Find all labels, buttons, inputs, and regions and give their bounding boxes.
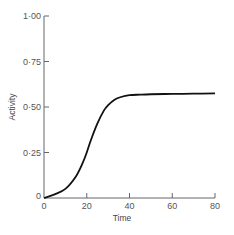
- x-tick-label: 20: [82, 201, 92, 211]
- y-tick-label: 1·00: [23, 11, 41, 21]
- x-axis-title: Time: [113, 213, 132, 223]
- x-ticks: 020406080: [41, 193, 220, 211]
- activity-curve: [44, 93, 215, 198]
- y-tick-label: 0·75: [23, 57, 41, 67]
- y-axis-title: Activity: [7, 93, 17, 121]
- chart: 00·250·500·751·00 020406080 Time Activit…: [0, 0, 234, 235]
- x-tick-label: 80: [210, 201, 220, 211]
- y-tick-label: 0: [36, 191, 41, 201]
- axes: [44, 16, 215, 198]
- y-ticks: 00·250·500·751·00: [23, 11, 49, 201]
- y-tick-label: 0·50: [23, 102, 41, 112]
- x-tick-label: 40: [124, 201, 134, 211]
- y-tick-label: 0·25: [23, 148, 41, 158]
- x-tick-label: 0: [41, 201, 46, 211]
- x-tick-label: 60: [167, 201, 177, 211]
